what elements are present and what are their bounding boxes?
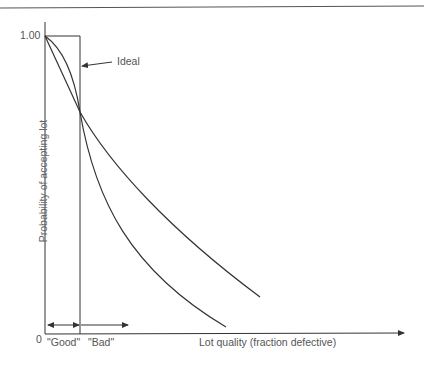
y-tick-zero: 0 xyxy=(36,333,42,345)
y-tick-top: 1.00 xyxy=(20,29,40,41)
steep-oc-curve xyxy=(45,36,226,327)
good-label: "Good" xyxy=(47,336,80,348)
top-rule xyxy=(0,6,424,8)
x-axis xyxy=(45,333,404,334)
x-axis-label: Lot quality (fraction defective) xyxy=(199,336,336,348)
ideal-arrow xyxy=(82,62,112,66)
bad-label: "Bad" xyxy=(88,336,114,348)
y-axis-label: Probability of accepting lot xyxy=(37,96,49,266)
ideal-label: Ideal xyxy=(117,55,140,67)
shallow-oc-curve xyxy=(45,36,260,297)
ideal-curve xyxy=(45,36,80,334)
oc-chart xyxy=(0,0,424,365)
